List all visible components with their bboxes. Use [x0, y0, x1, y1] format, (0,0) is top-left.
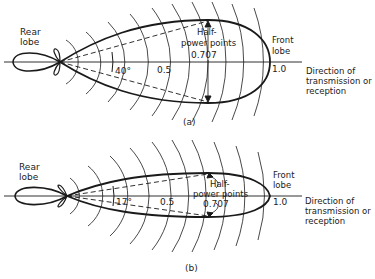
direction-label: reception	[306, 86, 346, 96]
half-power-value: 0.707	[203, 199, 229, 209]
rear-lobe-label: lobe	[20, 37, 40, 47]
half-power-label: power points	[193, 189, 249, 199]
direction-label: transmission or	[305, 206, 371, 216]
diagram-b	[4, 140, 302, 252]
radiation-pattern-figure: Rear lobe 40° 0.5 Half- power points 0.7…	[0, 0, 375, 279]
arrowhead-icon	[205, 96, 211, 102]
direction-label: reception	[305, 216, 345, 226]
half-power-label: Half-	[197, 27, 217, 37]
direction-label: transmission or	[306, 76, 372, 86]
diagram-a-labels: Rear lobe 40° 0.5 Half- power points 0.7…	[20, 27, 372, 127]
front-lobe-label: lobe	[272, 46, 290, 56]
front-lobe-label: Front	[272, 35, 294, 45]
front-lobe-label: Front	[273, 170, 295, 180]
caption-a: (a)	[183, 117, 196, 127]
direction-label: Direction of	[306, 66, 356, 76]
beamwidth-label: 17°	[116, 197, 132, 207]
half-power-label: power points	[181, 38, 237, 48]
caption-b: (b)	[185, 263, 198, 273]
diagram-a	[4, 2, 302, 122]
direction-label: Direction of	[305, 196, 355, 206]
half-power-label: Half-	[210, 179, 230, 189]
rear-lobe-label: Rear	[19, 162, 40, 172]
mid-value-label: 0.5	[160, 197, 174, 207]
front-lobe-label: lobe	[273, 180, 291, 190]
tip-value-label: 1.0	[272, 64, 287, 74]
rear-lobe-label: Rear	[20, 27, 41, 37]
half-power-value: 0.707	[191, 50, 217, 60]
mid-value-label: 0.5	[157, 65, 171, 75]
beamwidth-label: 40°	[115, 66, 131, 76]
half-power-line-lower	[60, 62, 208, 102]
tip-value-label: 1.0	[273, 197, 288, 207]
rear-lobe-label: lobe	[19, 172, 39, 182]
